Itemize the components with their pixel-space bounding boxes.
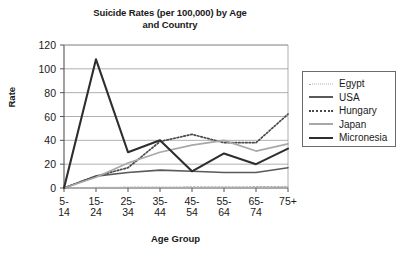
x-tick-label: 65-74 bbox=[239, 196, 273, 217]
y-tick-label: 40 bbox=[22, 135, 56, 145]
y-tick-label: 20 bbox=[22, 159, 56, 169]
x-tick-label-bottom: 24 bbox=[79, 207, 113, 218]
x-tick-label: 55-64 bbox=[207, 196, 241, 217]
x-tick-label-top: 65- bbox=[239, 196, 273, 207]
x-tick-label: 5-14 bbox=[47, 196, 81, 217]
legend-label: Egypt bbox=[333, 78, 365, 89]
data-series-group bbox=[64, 59, 288, 188]
x-tick-label-bottom: 64 bbox=[207, 207, 241, 218]
x-tick-label-bottom: 44 bbox=[143, 207, 177, 218]
x-tick-label-top: 35- bbox=[143, 196, 177, 207]
x-axis-ticks bbox=[64, 188, 288, 192]
legend-swatch-icon bbox=[309, 92, 333, 102]
y-tick-label: 60 bbox=[22, 112, 56, 122]
legend-swatch-icon bbox=[309, 79, 333, 89]
y-tick-label: 120 bbox=[22, 40, 56, 50]
legend-item-micronesia: Micronesia bbox=[303, 131, 395, 145]
legend-swatch-icon bbox=[309, 119, 333, 129]
x-tick-label-top: 15- bbox=[79, 196, 113, 207]
legend-label: USA bbox=[333, 92, 360, 103]
x-tick-label-top: 5- bbox=[47, 196, 81, 207]
legend-swatch-icon bbox=[309, 106, 333, 116]
legend-label: Micronesia bbox=[333, 132, 387, 143]
legend-swatch-icon bbox=[309, 133, 333, 143]
x-tick-label-bottom: 54 bbox=[175, 207, 209, 218]
y-tick-label: 0 bbox=[22, 183, 56, 193]
y-axis-ticks bbox=[60, 45, 64, 188]
legend-label: Japan bbox=[333, 119, 366, 130]
y-tick-label: 80 bbox=[22, 88, 56, 98]
x-tick-label: 75+ bbox=[271, 196, 305, 207]
legend-item-hungary: Hungary bbox=[303, 104, 395, 118]
x-tick-label: 45-54 bbox=[175, 196, 209, 217]
legend-item-japan: Japan bbox=[303, 118, 395, 132]
chart-legend: EgyptUSAHungaryJapanMicronesia bbox=[302, 71, 396, 147]
legend-item-usa: USA bbox=[303, 91, 395, 105]
series-line-micronesia bbox=[64, 59, 288, 188]
x-tick-label-bottom: 34 bbox=[111, 207, 145, 218]
x-tick-label-top: 55- bbox=[207, 196, 241, 207]
legend-item-egypt: Egypt bbox=[303, 77, 395, 91]
x-tick-label: 25-34 bbox=[111, 196, 145, 217]
x-tick-label-bottom: 14 bbox=[47, 207, 81, 218]
y-tick-label: 100 bbox=[22, 64, 56, 74]
line-chart: Suicide Rates (per 100,000) by Age and C… bbox=[0, 0, 405, 257]
legend-label: Hungary bbox=[333, 105, 377, 116]
x-tick-label: 35-44 bbox=[143, 196, 177, 217]
x-tick-label-bottom: 74 bbox=[239, 207, 273, 218]
series-line-usa bbox=[64, 168, 288, 188]
x-tick-label-top: 75+ bbox=[271, 196, 305, 207]
x-tick-label-top: 25- bbox=[111, 196, 145, 207]
x-tick-label: 15-24 bbox=[79, 196, 113, 217]
x-tick-label-top: 45- bbox=[175, 196, 209, 207]
